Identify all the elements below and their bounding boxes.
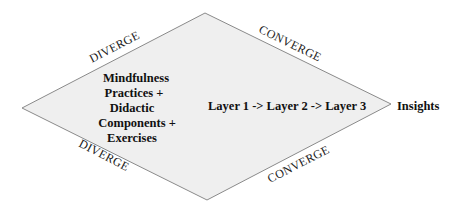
diverge-converge-diagram: DIVERGE CONVERGE DIVERGE CONVERGE Mindfu… [0, 0, 459, 212]
input-line-5: Exercises [107, 131, 157, 145]
input-line-4: Components + [98, 116, 176, 130]
insights-label: Insights [397, 99, 440, 113]
input-line-1: Mindfulness [103, 71, 169, 85]
input-line-2: Practices + [105, 86, 164, 100]
input-line-3: Didactic [110, 101, 155, 115]
layer-flow: Layer 1 -> Layer 2 -> Layer 3 [208, 99, 366, 113]
